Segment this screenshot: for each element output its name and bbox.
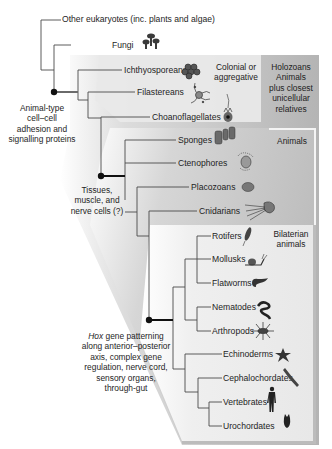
- choanoflagellate-icon: [224, 94, 233, 122]
- ctenophore-icon: [238, 153, 253, 170]
- starfish-icon: [275, 348, 291, 362]
- rotifer-icon: [243, 227, 253, 246]
- ichthyosporean-icon: [182, 64, 200, 79]
- tunicate-icon: [284, 414, 290, 428]
- mushroom-icon: [143, 34, 160, 50]
- nematode-icon: [258, 302, 270, 319]
- filasterean-icon: [191, 83, 210, 103]
- jellyfish-icon: [245, 202, 275, 220]
- placozoan-icon: [242, 183, 254, 192]
- organism-icons: [0, 0, 332, 449]
- sponge-icon: [215, 127, 235, 144]
- lancelet-icon: [283, 368, 299, 387]
- human-icon: [267, 387, 276, 412]
- flatworm-icon: [252, 278, 268, 287]
- snail-icon: [245, 254, 267, 266]
- arthropod-icon: [252, 322, 274, 340]
